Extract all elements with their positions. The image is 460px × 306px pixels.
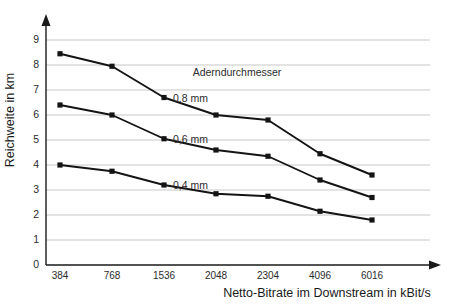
y-tick-label-5: 5 (33, 133, 39, 145)
x-tick-label-4096: 4096 (309, 270, 332, 281)
data-point-marker (369, 172, 374, 177)
chart-container: 0123456789 38476815362048230440966016 0,… (0, 0, 460, 306)
data-point-marker (57, 51, 62, 56)
line-chart: 0123456789 38476815362048230440966016 0,… (0, 0, 460, 306)
data-point-marker (317, 209, 322, 214)
data-point-marker (369, 217, 374, 222)
data-point-marker (57, 162, 62, 167)
y-tick-label-0: 0 (33, 258, 39, 270)
data-point-marker (265, 117, 270, 122)
series-label-2: 0,4 mm (173, 179, 208, 191)
data-point-marker (109, 112, 114, 117)
series-label-0: 0,8 mm (173, 92, 208, 104)
chart-background (0, 0, 460, 306)
data-point-marker (161, 182, 166, 187)
data-point-marker (109, 169, 114, 174)
data-point-marker (57, 102, 62, 107)
data-point-marker (213, 112, 218, 117)
y-tick-label-4: 4 (33, 158, 39, 170)
x-axis-title: Netto-Bitrate im Downstream in kBit/s (223, 286, 431, 300)
data-point-marker (161, 136, 166, 141)
x-tick-label-2304: 2304 (257, 270, 280, 281)
legend-title: Aderndurchmesser (193, 66, 282, 78)
y-axis-title: Reichweite in km (3, 73, 17, 167)
x-tick-label-2048: 2048 (205, 270, 228, 281)
data-point-marker (265, 194, 270, 199)
x-tick-label-768: 768 (104, 270, 121, 281)
data-point-marker (109, 64, 114, 69)
y-tick-label-2: 2 (33, 208, 39, 220)
y-tick-label-8: 8 (33, 58, 39, 70)
x-tick-label-1536: 1536 (153, 270, 176, 281)
data-point-marker (161, 95, 166, 100)
y-tick-label-9: 9 (33, 33, 39, 45)
x-tick-label-384: 384 (52, 270, 69, 281)
y-tick-label-1: 1 (33, 233, 39, 245)
y-tick-label-7: 7 (33, 83, 39, 95)
series-label-1: 0,6 mm (173, 133, 208, 145)
y-tick-label-3: 3 (33, 183, 39, 195)
data-point-marker (213, 147, 218, 152)
data-point-marker (317, 151, 322, 156)
x-tick-label-6016: 6016 (361, 270, 384, 281)
y-tick-label-6: 6 (33, 108, 39, 120)
data-point-marker (369, 195, 374, 200)
data-point-marker (213, 191, 218, 196)
data-point-marker (265, 154, 270, 159)
data-point-marker (317, 177, 322, 182)
